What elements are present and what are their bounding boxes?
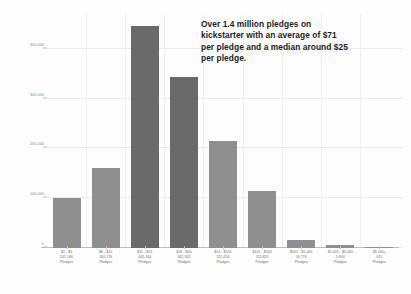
y-axis-tick-label: 0	[42, 242, 44, 246]
bar-5[interactable]	[209, 141, 237, 248]
y-axis-tick-label: 200,000	[30, 142, 44, 146]
bar-slot	[86, 14, 125, 248]
chart-annotation: Over 1.4 million pledges onkickstarter w…	[201, 19, 377, 65]
y-axis-tick-label: 400,000	[30, 43, 44, 47]
x-axis-tick-mark	[262, 246, 263, 249]
chart-container: 0100,000200,000300,000400,000 $1 - $5101…	[0, 0, 411, 294]
x-axis-label-group: $26 - $50342,942Pledges	[164, 250, 203, 266]
x-axis-unit-label: Pledges	[86, 260, 125, 265]
bar-3[interactable]	[131, 26, 159, 248]
x-axis-label-group: $501 - $1,00016,774Pledges	[282, 250, 321, 266]
x-axis-unit-label: Pledges	[47, 260, 86, 265]
x-axis-label-group: $51 - $100215,416Pledges	[203, 250, 242, 266]
annotation-line: kickstarter with an average of $71	[201, 30, 377, 41]
x-axis-unit-label: Pledges	[125, 260, 164, 265]
x-axis-label-group: $6 - $10160,176Pledges	[86, 250, 125, 266]
annotation-line: Over 1.4 million pledges on	[201, 19, 377, 30]
x-axis-unit-label: Pledges	[243, 260, 282, 265]
x-axis-tick-mark	[223, 246, 224, 249]
bar-slot	[125, 14, 164, 248]
x-axis-tick-mark	[145, 246, 146, 249]
x-axis-unit-label: Pledges	[360, 260, 399, 265]
x-axis-labels: $1 - $5101,166Pledges$6 - $10160,176Pled…	[47, 250, 399, 266]
x-axis-tick-mark	[106, 246, 107, 249]
x-axis-unit-label: Pledges	[282, 260, 321, 265]
x-axis-label-group: $101 - $500113,852Pledges	[243, 250, 282, 266]
x-axis-label-group: $5,000+615Pledges	[360, 250, 399, 266]
x-axis-label-group: $1 - $5101,166Pledges	[47, 250, 86, 266]
x-axis-label-group: $1,001 - $5,0005,904Pledges	[321, 250, 360, 266]
annotation-line: per pledge and a median around $25	[201, 42, 377, 53]
bar-4[interactable]	[170, 77, 198, 248]
x-axis-tick-mark	[379, 246, 380, 249]
annotation-line: per pledge.	[201, 53, 377, 64]
bar-1[interactable]	[53, 198, 81, 248]
y-axis-tick-label: 100,000	[30, 192, 44, 196]
y-axis-tick-label: 300,000	[30, 93, 44, 97]
bar-slot	[164, 14, 203, 248]
x-axis-tick-mark	[340, 246, 341, 249]
x-axis-unit-label: Pledges	[203, 260, 242, 265]
x-axis-tick-mark	[67, 246, 68, 249]
x-axis-unit-label: Pledges	[164, 260, 203, 265]
bar-2[interactable]	[92, 168, 120, 248]
x-axis-tick-mark	[184, 246, 185, 249]
x-axis-unit-label: Pledges	[321, 260, 360, 265]
bar-6[interactable]	[248, 191, 276, 248]
x-axis-label-group: $11 - $25445,164Pledges	[125, 250, 164, 266]
bar-slot	[47, 14, 86, 248]
x-axis-tick-mark	[301, 246, 302, 249]
